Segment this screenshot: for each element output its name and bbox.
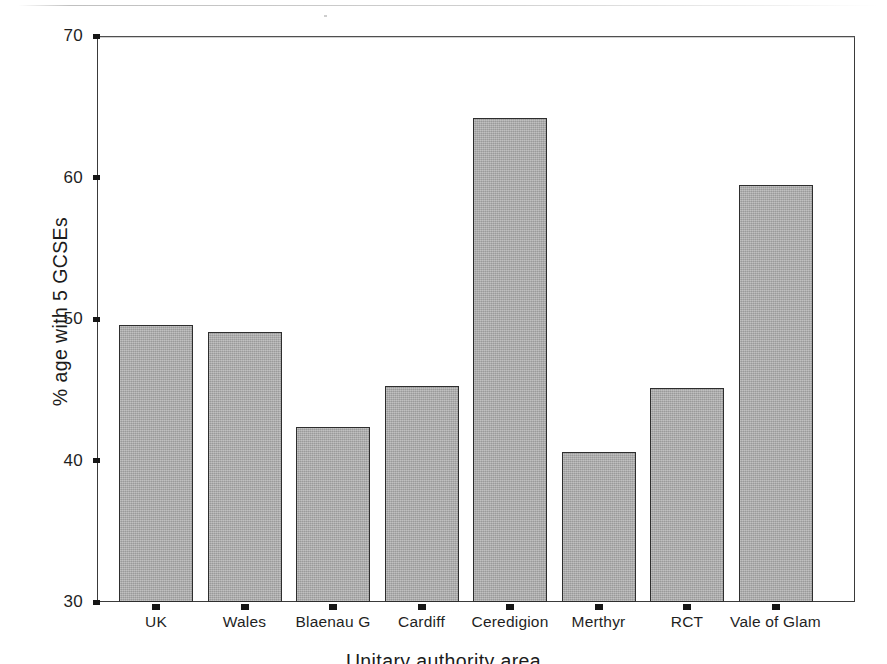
scan-artifact-speck — [324, 15, 327, 17]
x-axis-tick-label: Vale of Glam — [696, 613, 856, 631]
bar — [473, 118, 547, 602]
bar — [562, 452, 636, 602]
x-axis-tick-mark — [418, 604, 426, 610]
scan-artifact-line — [18, 5, 878, 6]
x-axis-tick-mark — [152, 604, 160, 610]
y-axis-tick-label: 70 — [23, 27, 83, 44]
x-axis-tick-mark — [683, 604, 691, 610]
x-axis-tick-mark — [772, 604, 780, 610]
x-axis-tick-mark — [595, 604, 603, 610]
bar — [385, 386, 459, 602]
x-axis-title-clip: Unitary authority area — [0, 650, 887, 664]
bar — [119, 325, 193, 602]
bar-chart-figure: 3040506070 % age with 5 GCSEs UKWalesBla… — [0, 0, 887, 664]
bar — [208, 332, 282, 602]
x-axis-tick-mark — [241, 604, 249, 610]
x-axis-tick-mark — [506, 604, 514, 610]
bar — [739, 185, 813, 602]
bar — [296, 427, 370, 602]
x-axis-tick-mark — [329, 604, 337, 610]
bar-series — [97, 36, 855, 602]
y-axis-title: % age with 5 GCSEs — [49, 102, 72, 522]
bar — [650, 388, 724, 602]
x-axis-title: Unitary authority area — [0, 650, 887, 664]
y-axis-tick-label: 30 — [23, 593, 83, 610]
